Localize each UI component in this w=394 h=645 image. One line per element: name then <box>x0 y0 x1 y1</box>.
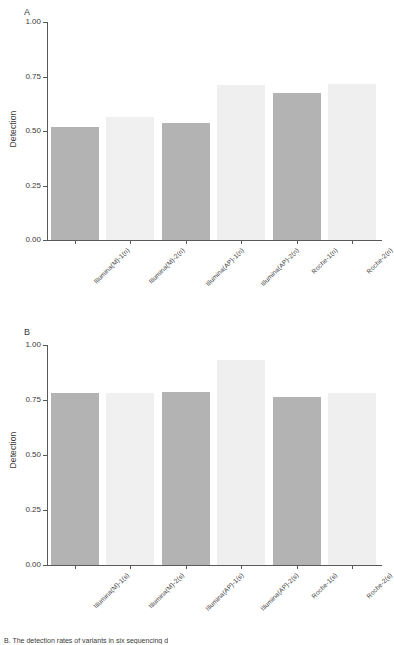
panel-a: A Detection 0.000.250.500.751.00Illumina… <box>0 0 390 320</box>
x-tick-b-2 <box>186 565 187 569</box>
bar <box>51 393 99 565</box>
y-axis-title-b: Detection <box>8 420 18 480</box>
y-tick-label-a-2: 0.50 <box>25 127 41 135</box>
panel-b: B Detection 0.000.250.500.751.00Illumina… <box>0 320 390 645</box>
bar <box>328 84 376 240</box>
x-axis-label: Illumina(M)-2(s) <box>148 572 186 610</box>
y-tick-label-a-0: 0.00 <box>25 236 41 244</box>
x-axis-label: Roche-2(s) <box>366 572 394 600</box>
y-tick-b-0 <box>43 565 47 566</box>
x-axis-line-b <box>47 565 382 566</box>
y-axis-line-b <box>47 345 48 565</box>
x-tick-b-0 <box>75 565 76 569</box>
bar <box>162 392 210 565</box>
panel-letter-a: A <box>24 8 30 17</box>
y-axis-title-a: Detection <box>8 99 18 159</box>
bar <box>162 123 210 240</box>
y-tick-a-4 <box>43 22 47 23</box>
x-tick-b-5 <box>352 565 353 569</box>
y-tick-b-4 <box>43 345 47 346</box>
y-tick-a-0 <box>43 240 47 241</box>
y-tick-label-b-1: 0.25 <box>25 506 41 514</box>
x-axis-label: Illumina(M)-1(s) <box>93 572 131 610</box>
y-axis-line-a <box>47 22 48 240</box>
bar <box>273 93 321 240</box>
x-axis-label: Roche-1(n) <box>311 247 339 275</box>
x-axis-label: Illumina(AP)-1(n) <box>205 247 246 288</box>
y-tick-a-1 <box>43 186 47 187</box>
bar <box>51 127 99 240</box>
x-tick-a-4 <box>297 240 298 244</box>
figure-caption: B. The detection rates of variants in si… <box>4 637 168 644</box>
bar <box>328 393 376 565</box>
y-tick-b-2 <box>43 455 47 456</box>
y-tick-a-3 <box>43 77 47 78</box>
y-tick-a-2 <box>43 131 47 132</box>
x-tick-b-4 <box>297 565 298 569</box>
x-axis-label: Illumina(AP)-2(s) <box>260 572 300 612</box>
y-tick-label-a-3: 0.75 <box>25 73 41 81</box>
x-tick-a-2 <box>186 240 187 244</box>
y-tick-label-b-4: 1.00 <box>25 341 41 349</box>
panel-letter-b: B <box>24 328 30 337</box>
x-axis-label: Illumina(AP)-2(n) <box>260 247 301 288</box>
x-tick-b-1 <box>130 565 131 569</box>
x-axis-label: Illumina(M)-2(n) <box>148 247 186 285</box>
y-tick-b-1 <box>43 510 47 511</box>
x-tick-a-5 <box>352 240 353 244</box>
y-tick-b-3 <box>43 400 47 401</box>
bar <box>217 85 265 240</box>
bar <box>106 393 154 565</box>
x-tick-a-0 <box>75 240 76 244</box>
bar <box>106 117 154 240</box>
y-tick-label-b-3: 0.75 <box>25 396 41 404</box>
bar <box>217 360 265 565</box>
y-tick-label-b-2: 0.50 <box>25 451 41 459</box>
x-tick-a-3 <box>241 240 242 244</box>
x-tick-a-1 <box>130 240 131 244</box>
y-tick-label-a-1: 0.25 <box>25 182 41 190</box>
x-axis-line-a <box>47 240 382 241</box>
x-axis-label: Roche-2(n) <box>366 247 394 275</box>
bar <box>273 397 321 565</box>
x-axis-label: Illumina(M)-1(n) <box>93 247 131 285</box>
plot-area-b: 0.000.250.500.751.00Illumina(M)-1(s)Illu… <box>47 345 380 565</box>
x-axis-label: Roche-1(s) <box>310 572 338 600</box>
y-tick-label-a-4: 1.00 <box>25 18 41 26</box>
plot-area-a: 0.000.250.500.751.00Illumina(M)-1(n)Illu… <box>47 22 380 240</box>
y-tick-label-b-0: 0.00 <box>25 561 41 569</box>
x-axis-label: Illumina(AP)-1(s) <box>205 572 245 612</box>
x-tick-b-3 <box>241 565 242 569</box>
